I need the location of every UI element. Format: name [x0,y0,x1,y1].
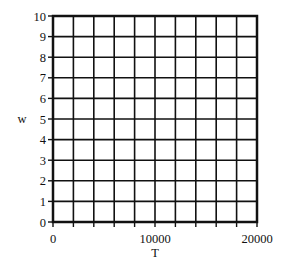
y-axis-ticks: 012345678910 [34,10,54,230]
x-axis-label: T [151,246,159,260]
y-tick-label: 5 [40,113,46,127]
grid-lines [53,16,257,222]
y-tick-label: 0 [40,216,46,230]
y-tick-label: 2 [40,174,46,188]
y-tick-label: 6 [40,92,46,106]
y-axis-label: w [17,112,26,126]
x-axis-ticks: 01000020000 [50,222,273,246]
blank-graph-grid: 012345678910 01000020000 w T [0,0,284,265]
y-tick-label: 9 [40,30,46,44]
y-tick-label: 7 [40,71,46,85]
y-tick-label: 1 [40,195,46,209]
y-tick-label: 3 [40,154,46,168]
x-tick-label: 20000 [241,232,272,246]
x-tick-label: 10000 [139,232,170,246]
y-tick-label: 8 [40,51,46,65]
y-tick-label: 10 [34,10,47,24]
x-tick-label: 0 [50,232,56,246]
y-tick-label: 4 [40,133,47,147]
